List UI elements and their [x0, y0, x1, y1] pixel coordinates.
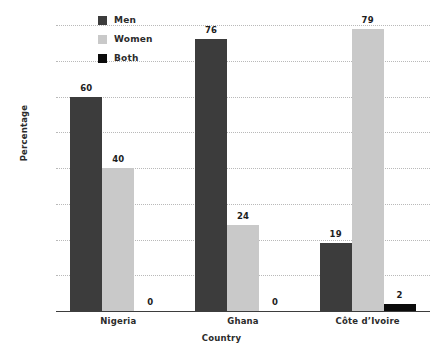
legend-item[interactable]: Men [98, 12, 153, 28]
legend-label: Both [114, 53, 139, 63]
bar-value-label: 24 [227, 211, 259, 221]
legend-item[interactable]: Both [98, 50, 153, 66]
legend-swatch-icon [98, 54, 107, 63]
bar-chart: Percentage 0%10%20%30%40%50%60%70%80% 60… [0, 0, 443, 352]
x-axis-tick-label: Nigeria [56, 316, 181, 326]
x-axis-tick-label: Ghana [181, 316, 306, 326]
legend-swatch-icon [98, 16, 107, 25]
bar[interactable] [70, 97, 102, 312]
legend-swatch-icon [98, 35, 107, 44]
legend: MenWomenBoth [98, 12, 153, 69]
legend-label: Men [114, 15, 136, 25]
legend-label: Women [114, 34, 153, 44]
bar-value-label: 19 [320, 229, 352, 239]
bar[interactable] [227, 225, 259, 311]
legend-item[interactable]: Women [98, 31, 153, 47]
bar[interactable] [320, 243, 352, 311]
bar-value-label: 40 [102, 154, 134, 164]
bar-value-label: 60 [70, 83, 102, 93]
bar-value-label: 2 [384, 290, 416, 300]
bar-value-label: 79 [352, 15, 384, 25]
bar-value-label: 76 [195, 25, 227, 35]
bar[interactable] [352, 29, 384, 311]
y-axis-title: Percentage [19, 73, 29, 193]
axis-baseline [56, 311, 430, 312]
bar[interactable] [102, 168, 134, 311]
bar-value-label: 0 [134, 297, 166, 307]
bar[interactable] [195, 39, 227, 311]
bar-value-label: 0 [259, 297, 291, 307]
x-axis-title: Country [0, 333, 443, 343]
x-axis-tick-label: Côte d’Ivoire [305, 316, 430, 326]
bar[interactable] [384, 304, 416, 311]
